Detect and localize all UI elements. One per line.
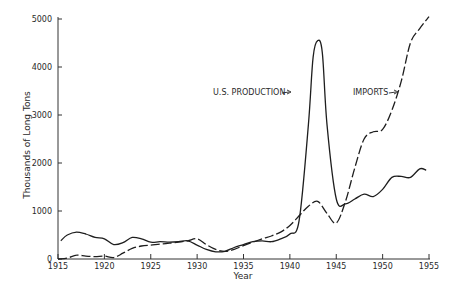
- imports-line: [58, 17, 429, 259]
- x-tick-label: 1955: [419, 262, 439, 271]
- x-tick-label: 1920: [94, 262, 114, 271]
- annotation-imports: IMPORTS: [353, 88, 388, 97]
- us-production-line: [61, 40, 426, 252]
- y-tick-label: 4000: [32, 63, 52, 72]
- line-chart: 0100020003000400050001915192019251930193…: [0, 0, 457, 293]
- y-axis-label: Thousands of Long Tons: [22, 91, 32, 200]
- x-tick-label: 1915: [48, 262, 68, 271]
- x-tick-label: 1940: [280, 262, 300, 271]
- x-tick-label: 1945: [326, 262, 346, 271]
- chart-container: 0100020003000400050001915192019251930193…: [0, 0, 457, 293]
- annotation-us-production: U.S. PRODUCTION: [213, 88, 285, 97]
- series-layer: [58, 17, 429, 259]
- y-tick-label: 1000: [32, 207, 52, 216]
- x-axis-label: Year: [232, 271, 252, 281]
- arrow-icon: [389, 90, 398, 94]
- y-tick-label: 3000: [32, 111, 52, 120]
- y-tick-label: 2000: [32, 159, 52, 168]
- annotations: U.S. PRODUCTION IMPORTS: [213, 88, 398, 97]
- y-tick-label: 5000: [32, 15, 52, 24]
- x-tick-label: 1935: [233, 262, 253, 271]
- x-tick-label: 1930: [187, 262, 207, 271]
- axes: 0100020003000400050001915192019251930193…: [32, 15, 440, 271]
- x-tick-label: 1950: [372, 262, 392, 271]
- x-tick-label: 1925: [141, 262, 161, 271]
